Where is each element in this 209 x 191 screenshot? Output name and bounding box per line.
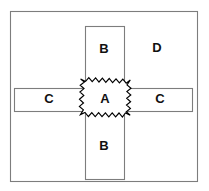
set-region-diagram: B D C A C B <box>0 0 209 191</box>
diagram-canvas: B D C A C B <box>0 0 209 191</box>
label-c-left: C <box>44 91 54 106</box>
label-d-right: D <box>152 40 161 55</box>
label-b-top: B <box>99 41 108 56</box>
label-b-bottom: B <box>99 138 108 153</box>
label-a-center: A <box>100 91 110 106</box>
label-c-right: C <box>155 91 165 106</box>
